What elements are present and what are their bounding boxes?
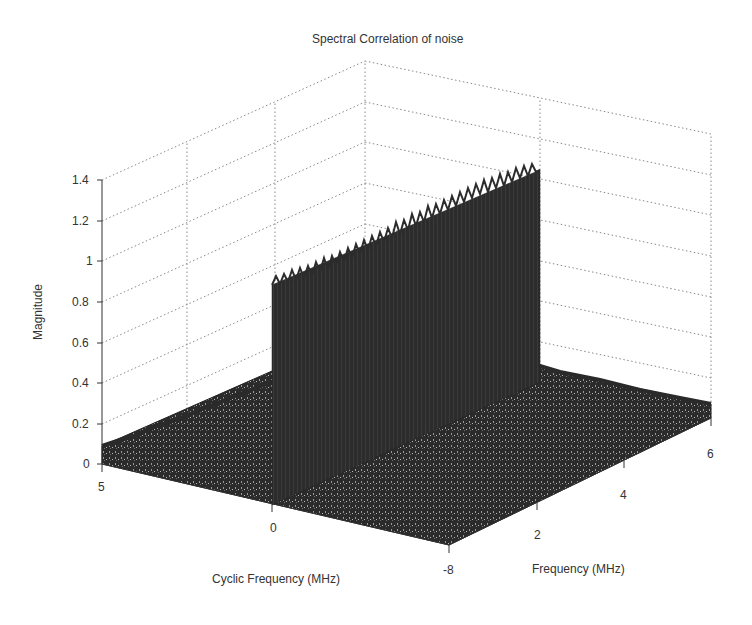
x-tick-label: -8 — [443, 563, 454, 577]
z-tick-label: 1 — [86, 254, 93, 268]
z-tick-label: 0.8 — [72, 295, 89, 309]
z-tick-label: 0 — [83, 457, 90, 471]
z-tick-label: 0.6 — [72, 336, 89, 350]
x-axis-label: Cyclic Frequency (MHz) — [212, 572, 340, 586]
y-axis-label: Frequency (MHz) — [532, 562, 625, 576]
chart-plot-area — [0, 0, 752, 625]
y-tick-label: 2 — [534, 528, 541, 542]
z-tick-label: 0.4 — [72, 376, 89, 390]
y-tick-label: 4 — [620, 488, 627, 502]
z-tick-label: 0.2 — [72, 417, 89, 431]
z-tick-label: 1.4 — [72, 173, 89, 187]
z-axis-label: Magnitude — [31, 284, 45, 340]
y-tick-label: 6 — [707, 447, 714, 461]
z-tick-label: 1.2 — [72, 214, 89, 228]
x-tick-label: 5 — [98, 480, 105, 494]
chart-title: Spectral Correlation of noise — [312, 32, 463, 46]
x-tick-label: 0 — [270, 521, 277, 535]
